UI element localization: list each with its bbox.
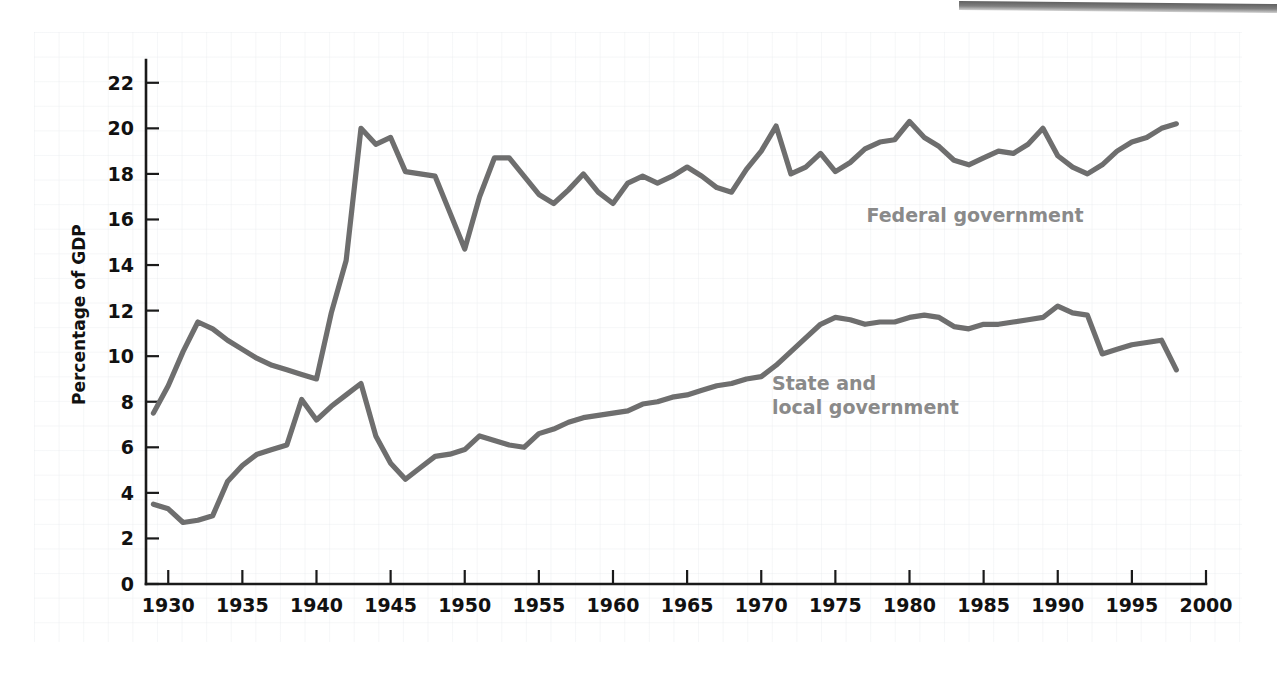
x-tick-label: 1960	[587, 594, 640, 616]
y-axis-title: Percentage of GDP	[69, 224, 89, 405]
y-tick-label: 2	[121, 527, 134, 549]
y-tick-label: 6	[121, 436, 134, 458]
x-tick-label: 1990	[1031, 594, 1084, 616]
series-line-state-local	[153, 306, 1176, 522]
line-chart: 0246810121416182022 19301935194019451950…	[0, 0, 1277, 681]
x-tick-label: 1945	[364, 594, 417, 616]
x-tick-label: 1980	[883, 594, 936, 616]
y-tick-label: 0	[121, 573, 134, 595]
series-label-state-local-line2: local government	[772, 396, 959, 418]
chart-canvas: 0246810121416182022 19301935194019451950…	[0, 0, 1277, 681]
x-tick-label: 1955	[512, 594, 565, 616]
y-tick-label: 10	[108, 345, 134, 367]
y-tick-label: 14	[108, 254, 134, 276]
x-tick-label: 1975	[809, 594, 862, 616]
series-line-federal	[153, 122, 1176, 414]
y-tick-label: 12	[108, 300, 134, 322]
x-tick-label: 1995	[1105, 594, 1158, 616]
x-tick-label: 1970	[735, 594, 788, 616]
x-tick-label: 1930	[142, 594, 195, 616]
x-tick-label: 1935	[216, 594, 269, 616]
x-tick-label: 2000	[1180, 594, 1233, 616]
x-axis-ticks	[168, 570, 1206, 584]
y-tick-label: 20	[108, 117, 134, 139]
y-axis-ticks	[146, 83, 159, 584]
x-axis-tick-labels: 1930193519401945195019551960196519701975…	[142, 594, 1233, 616]
y-tick-label: 22	[108, 72, 134, 94]
series-label-state-local-line1: State and	[772, 372, 876, 394]
x-tick-label: 1965	[661, 594, 714, 616]
y-tick-label: 4	[121, 482, 134, 504]
x-tick-label: 1950	[438, 594, 491, 616]
y-axis-tick-labels: 0246810121416182022	[108, 72, 134, 595]
x-tick-label: 1940	[290, 594, 343, 616]
x-tick-label: 1985	[957, 594, 1010, 616]
series-label-federal: Federal government	[866, 204, 1083, 226]
y-tick-label: 16	[108, 208, 134, 230]
y-tick-label: 18	[108, 163, 134, 185]
y-tick-label: 8	[121, 391, 134, 413]
